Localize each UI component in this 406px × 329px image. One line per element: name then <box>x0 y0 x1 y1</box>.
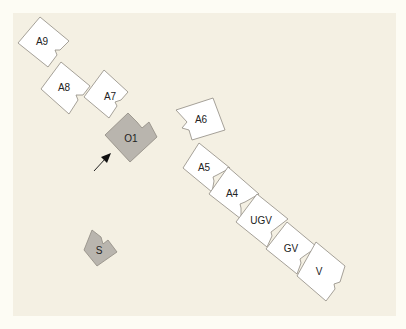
pointer-arrow <box>94 153 111 171</box>
piece-a7: A7 <box>84 70 128 118</box>
piece-label: S <box>96 245 103 256</box>
piece-a8: A8 <box>41 62 90 114</box>
piece-a6: A6 <box>176 98 225 140</box>
diagram-canvas: A9A8A7O1A6A5A4UGVGVVS <box>0 0 406 329</box>
pieces-layer: A9A8A7O1A6A5A4UGVGVVS <box>18 17 345 301</box>
piece-label: O1 <box>124 133 138 144</box>
piece-label: A8 <box>58 82 71 93</box>
piece-label: UGV <box>250 215 272 226</box>
piece-label: A5 <box>198 162 211 173</box>
piece-label: A4 <box>226 188 239 199</box>
piece-label: V <box>316 266 323 277</box>
piece-o1: O1 <box>105 113 157 162</box>
piece-s: S <box>84 230 117 266</box>
piece-a9: A9 <box>18 17 69 67</box>
piece-label: A7 <box>104 91 117 102</box>
piece-label: A9 <box>36 36 49 47</box>
piece-label: A6 <box>195 114 208 125</box>
piece-label: GV <box>284 243 299 254</box>
